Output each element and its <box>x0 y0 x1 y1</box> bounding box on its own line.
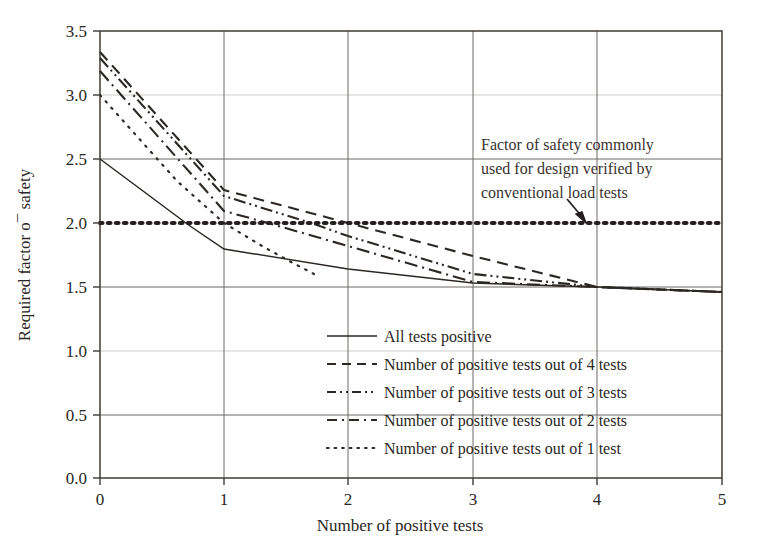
ytick-label-2.5: 2.5 <box>66 150 87 169</box>
x-axis-title: Number of positive tests <box>317 516 484 535</box>
ytick-label-3.0: 3.0 <box>66 86 87 105</box>
xtick-label-1: 1 <box>220 490 229 509</box>
required-factor-of-safety-chart: Factor of safety commonly used for desig… <box>0 0 761 555</box>
ytick-label-1.0: 1.0 <box>66 342 87 361</box>
xtick-label-2: 2 <box>344 490 353 509</box>
xtick-label-0: 0 <box>96 490 105 509</box>
legend-label-1: Number of positive tests out of 4 tests <box>384 356 627 374</box>
ytick-label-0.0: 0.0 <box>66 469 87 488</box>
ytick-label-1.5: 1.5 <box>66 278 87 297</box>
legend-label-3: Number of positive tests out of 2 tests <box>384 412 627 430</box>
ytick-label-2.0: 2.0 <box>66 214 87 233</box>
annotation-line-2: used for design verified by <box>481 160 653 178</box>
chart-page: Factor of safety commonly used for desig… <box>0 0 761 555</box>
y-axis: 3.5 3.0 2.5 2.0 1.5 1.0 0.5 0.0 <box>66 22 100 488</box>
legend-label-2: Number of positive tests out of 3 tests <box>384 384 627 402</box>
y-axis-title: Required factor o¯ safety <box>15 168 34 341</box>
xtick-label-3: 3 <box>469 490 478 509</box>
xtick-label-4: 4 <box>593 490 602 509</box>
annotation-line-1: Factor of safety commonly <box>481 136 654 154</box>
annotation-line-3: conventional load tests <box>481 184 628 201</box>
x-axis: 0 1 2 3 4 5 <box>96 478 727 509</box>
legend-label-4: Number of positive tests out of 1 test <box>384 440 621 458</box>
xtick-label-5: 5 <box>718 490 727 509</box>
ytick-label-0.5: 0.5 <box>66 406 87 425</box>
legend-label-0: All tests positive <box>384 328 492 346</box>
ytick-label-3.5: 3.5 <box>66 22 87 41</box>
